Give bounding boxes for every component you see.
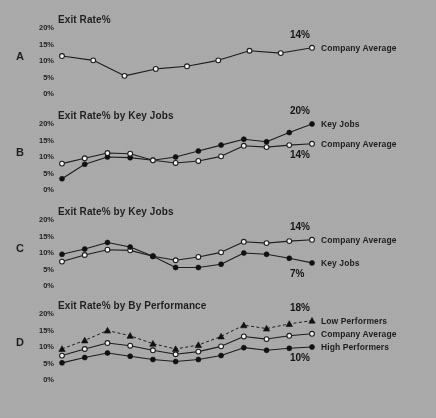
line-chart-c	[58, 220, 322, 292]
panel-b-title: Exit Rate% by Key Jobs	[58, 110, 174, 121]
data-point-marker	[309, 317, 315, 323]
data-point-marker	[82, 162, 87, 167]
line-chart-d	[58, 314, 322, 386]
data-point-marker	[128, 354, 133, 359]
y-tick-label: 10%	[39, 249, 54, 257]
series-label-low-performers: Low Performers	[321, 316, 387, 326]
data-point-marker	[310, 141, 315, 146]
series-label-company-average: Company Average	[321, 329, 397, 339]
data-point-marker	[150, 357, 155, 362]
end-value-low-performers: 18%	[290, 302, 310, 313]
y-tick-label: 0%	[43, 186, 54, 194]
data-point-marker	[241, 322, 247, 328]
data-point-marker	[173, 161, 178, 166]
series-label-company-average: Company Average	[321, 139, 397, 149]
end-value-key-jobs: 20%	[290, 105, 310, 116]
data-point-marker	[287, 239, 292, 244]
data-point-marker	[247, 48, 252, 53]
data-point-marker	[151, 158, 156, 163]
data-point-marker	[310, 345, 315, 350]
data-point-marker	[82, 156, 87, 161]
data-point-marker	[196, 159, 201, 164]
data-point-marker	[122, 73, 127, 78]
panel-d: Exit Rate% by By Performance D 20%15%10%…	[0, 300, 436, 400]
y-tick-label: 20%	[39, 24, 54, 32]
data-point-marker	[173, 352, 178, 357]
data-point-marker	[310, 260, 315, 265]
data-point-marker	[60, 252, 65, 257]
end-value-company-average: 14%	[290, 221, 310, 232]
panel-d-y-axis: 20%15%10%5%0%	[24, 314, 54, 380]
panel-a-title: Exit Rate%	[58, 14, 111, 25]
data-point-marker	[91, 58, 96, 63]
series-label-high-performers: High Performers	[321, 342, 389, 352]
series-label-key-jobs: Key Jobs	[321, 258, 360, 268]
line-chart-a	[58, 28, 322, 100]
series-line	[62, 242, 312, 267]
data-point-marker	[128, 151, 133, 156]
series-label-company-average: Company Average	[321, 43, 397, 53]
end-value-key-jobs: 7%	[290, 268, 304, 279]
data-point-marker	[105, 151, 110, 156]
data-point-marker	[150, 254, 155, 259]
data-point-marker	[241, 345, 246, 350]
data-point-marker	[60, 161, 65, 166]
panel-d-plot	[58, 314, 322, 386]
data-point-marker	[173, 359, 178, 364]
data-point-marker	[287, 333, 292, 338]
end-value-high-performers: 10%	[290, 352, 310, 363]
data-point-marker	[82, 253, 87, 258]
y-tick-label: 5%	[43, 360, 54, 368]
data-point-marker	[105, 247, 110, 252]
data-point-marker	[264, 241, 269, 246]
data-point-marker	[104, 327, 110, 333]
data-point-marker	[82, 337, 88, 343]
data-point-marker	[82, 247, 87, 252]
y-tick-label: 0%	[43, 376, 54, 384]
data-point-marker	[241, 251, 246, 256]
data-point-marker	[310, 122, 315, 127]
data-point-marker	[310, 331, 315, 336]
data-point-marker	[60, 360, 65, 365]
data-point-marker	[196, 349, 201, 354]
data-point-marker	[196, 149, 201, 154]
data-point-marker	[105, 350, 110, 355]
data-point-marker	[264, 252, 269, 257]
y-tick-label: 5%	[43, 266, 54, 274]
y-tick-label: 15%	[39, 41, 54, 49]
data-point-marker	[195, 342, 201, 348]
data-point-marker	[241, 143, 246, 148]
panel-d-title: Exit Rate% by By Performance	[58, 300, 206, 311]
data-point-marker	[241, 334, 246, 339]
y-tick-label: 10%	[39, 153, 54, 161]
panel-b: Exit Rate% by Key Jobs B 20%15%10%5%0% K…	[0, 110, 436, 202]
data-point-marker	[218, 333, 224, 339]
data-point-marker	[219, 344, 224, 349]
data-point-marker	[105, 240, 110, 245]
y-tick-label: 20%	[39, 120, 54, 128]
data-point-marker	[264, 139, 269, 144]
data-point-marker	[219, 250, 224, 255]
series-line	[62, 240, 312, 262]
series-line	[62, 48, 312, 76]
data-point-marker	[173, 265, 178, 270]
data-point-marker	[264, 348, 269, 353]
data-point-marker	[105, 341, 110, 346]
data-point-marker	[264, 145, 269, 150]
panel-a: Exit Rate% A 20%15%10%5%0% Company Avera…	[0, 14, 436, 106]
series-label-company-average: Company Average	[321, 235, 397, 245]
data-point-marker	[128, 245, 133, 250]
data-point-marker	[264, 337, 269, 342]
data-point-marker	[219, 143, 224, 148]
panel-c-plot	[58, 220, 322, 292]
data-point-marker	[310, 45, 315, 50]
y-tick-label: 5%	[43, 170, 54, 178]
data-point-marker	[60, 54, 65, 59]
series-label-key-jobs: Key Jobs	[321, 119, 360, 129]
panel-c-title: Exit Rate% by Key Jobs	[58, 206, 174, 217]
panel-b-y-axis: 20%15%10%5%0%	[24, 124, 54, 190]
series-line	[62, 347, 312, 363]
data-point-marker	[173, 258, 178, 263]
data-point-marker	[60, 259, 65, 264]
y-tick-label: 0%	[43, 282, 54, 290]
